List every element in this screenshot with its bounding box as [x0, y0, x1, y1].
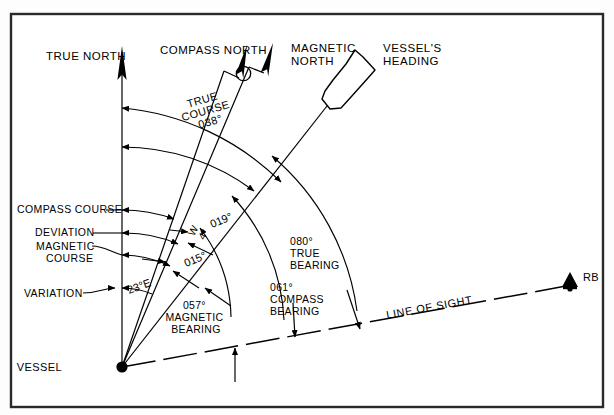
magnetic-north-word-1: MAGNETIC	[291, 42, 356, 54]
magnetic-bearing-word-2: BEARING	[171, 323, 220, 335]
label-vessel: VESSEL	[17, 361, 62, 373]
label-true-north: TRUE NORTH	[46, 50, 126, 62]
label-vessels-heading: VESSEL'S HEADING	[383, 42, 445, 67]
label-magnetic-course: MAGNETIC COURSE	[36, 240, 98, 264]
figure-canvas: TRUE NORTH COMPASS NORTH MAGNETIC COURSE…	[0, 0, 614, 415]
compass-error-diagram: TRUE NORTH COMPASS NORTH MAGNETIC COURSE…	[0, 0, 614, 415]
true-bearing-word-1: TRUE	[290, 247, 320, 259]
label-deviation: DEVIATION	[35, 226, 94, 238]
label-radio-beacon: RB	[583, 271, 599, 283]
label-compass-north: COMPASS NORTH	[160, 44, 267, 56]
vessel-origin-dot	[116, 361, 127, 372]
label-compass-course: COMPASS COURSE	[17, 203, 122, 215]
true-bearing-word-2: BEARING	[290, 259, 339, 271]
label-variation: VARIATION	[24, 287, 83, 299]
vessel-heading-word-1: VESSEL'S	[383, 42, 442, 54]
magnetic-north-word-2: NORTH	[291, 55, 334, 67]
magnetic-course-word-2: COURSE	[46, 252, 93, 264]
true-bearing-value: 080°	[290, 235, 313, 247]
compass-bearing-word-1: COMPASS	[270, 293, 324, 305]
compass-bearing-word-2: BEARING	[270, 305, 319, 317]
vessel-heading-word-2: HEADING	[383, 55, 439, 67]
magnetic-bearing-value: 057°	[183, 299, 206, 311]
magnetic-bearing-word-1: MAGNETIC	[165, 311, 223, 323]
magnetic-course-word-1: MAGNETIC	[36, 240, 95, 252]
compass-bearing-value: 061°	[270, 281, 293, 293]
